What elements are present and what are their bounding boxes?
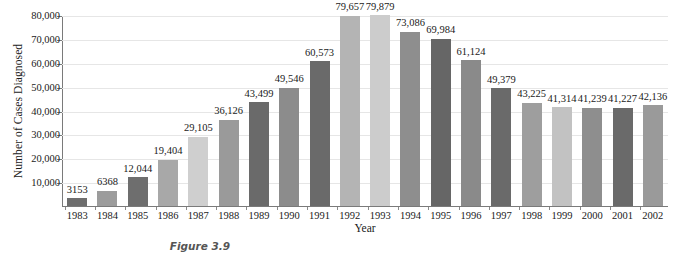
bar-group[interactable]: 43,4991989 [244,16,274,206]
x-axis-line [62,206,668,207]
bar-group[interactable]: 73,0861994 [395,16,425,206]
bar[interactable] [552,107,572,206]
x-axis-tick [459,207,460,210]
bar[interactable] [582,108,602,206]
x-axis-tick [95,207,96,210]
x-axis-tick [337,207,338,210]
bar-group[interactable]: 41,2272001 [607,16,637,206]
bar-value-label: 41,239 [578,94,607,105]
y-axis-tick-label: 10,000 [4,178,60,189]
bar-value-label: 36,126 [214,106,243,117]
bar[interactable] [643,105,663,206]
x-axis-tick [186,207,187,210]
bar-value-label: 41,314 [548,94,577,105]
bar[interactable] [431,39,451,206]
y-axis-tick-label: 30,000 [4,130,60,141]
x-axis-tick-label: 1997 [491,210,512,221]
bar-group[interactable]: 19,4041986 [153,16,183,206]
bar[interactable] [158,160,178,206]
x-axis-tick [580,207,581,210]
bar[interactable] [491,88,511,206]
y-axis-tick-label: 60,000 [4,59,60,70]
bar[interactable] [279,88,299,206]
x-axis-tick [216,207,217,210]
bar-value-label: 19,404 [154,146,183,157]
bar[interactable] [310,61,330,206]
bar-value-label: 6368 [97,177,118,188]
x-axis-title: Year [62,222,668,234]
bar-series: 315319836368198412,044198519,404198629,1… [62,16,668,206]
bar-group[interactable]: 36,1261988 [214,16,244,206]
y-axis-tick-label: 20,000 [4,154,60,165]
x-axis-tick-label: 1991 [309,210,330,221]
bar[interactable] [67,198,87,206]
bar-group[interactable]: 41,3141999 [547,16,577,206]
bar-group[interactable]: 42,1362002 [638,16,668,206]
x-axis-tick [65,207,66,210]
x-axis-tick-label: 1992 [339,210,360,221]
bar-value-label: 49,379 [487,75,516,86]
x-axis-tick-label: 1986 [158,210,179,221]
x-axis-tick [489,207,490,210]
bar[interactable] [522,103,542,206]
bar-value-label: 79,879 [366,2,395,13]
bar[interactable] [340,16,360,206]
bar-group[interactable]: 31531983 [62,16,92,206]
bar-value-label: 61,124 [457,47,486,58]
bar-value-label: 29,105 [184,123,213,134]
bar[interactable] [219,120,239,206]
bar-value-label: 60,573 [305,48,334,59]
y-axis-tick-label: 70,000 [4,35,60,46]
bar[interactable] [613,108,633,206]
bar-group[interactable]: 79,8791993 [365,16,395,206]
bar-group[interactable]: 69,9841995 [426,16,456,206]
x-axis-tick [307,207,308,210]
bar-value-label: 41,227 [608,94,637,105]
bar-value-label: 73,086 [396,18,425,29]
x-axis-tick-label: 1996 [461,210,482,221]
x-axis-tick-label: 1993 [370,210,391,221]
bar-group[interactable]: 79,6571992 [335,16,365,206]
bar-group[interactable]: 49,3791997 [486,16,516,206]
y-axis-tick-label: 50,000 [4,83,60,94]
bar-value-label: 43,225 [517,89,546,100]
x-axis-tick [398,207,399,210]
figure-container: Number of Cases Diagnosed 10,00020,00030… [0,0,678,265]
x-axis-tick [277,207,278,210]
bar-group[interactable]: 60,5731991 [304,16,334,206]
bar-value-label: 3153 [67,185,88,196]
bar-value-label: 43,499 [245,89,274,100]
bar-group[interactable]: 63681984 [92,16,122,206]
x-axis-tick-label: 2001 [612,210,633,221]
bar[interactable] [461,60,481,206]
bar-value-label: 12,044 [123,164,152,175]
x-axis-tick-label: 2002 [642,210,663,221]
x-axis-tick [640,207,641,210]
bar-group[interactable]: 49,5461990 [274,16,304,206]
x-axis-tick-label: 1990 [279,210,300,221]
bar-value-label: 79,657 [335,2,364,13]
x-axis-tick [125,207,126,210]
bar-group[interactable]: 43,2251998 [517,16,547,206]
x-axis-tick [610,207,611,210]
x-axis-tick-label: 2000 [582,210,603,221]
plot-area: 10,00020,00030,00040,00050,00060,00070,0… [62,16,668,207]
bar[interactable] [249,102,269,206]
bar[interactable] [400,32,420,206]
bar-value-label: 49,546 [275,74,304,85]
x-axis-tick-label: 1987 [188,210,209,221]
bar[interactable] [188,137,208,206]
x-axis-tick [549,207,550,210]
bar[interactable] [128,177,148,206]
bar-group[interactable]: 29,1051987 [183,16,213,206]
bar-group[interactable]: 61,1241996 [456,16,486,206]
x-axis-tick-label: 1984 [97,210,118,221]
bar[interactable] [97,191,117,206]
x-axis-tick-label: 1983 [67,210,88,221]
x-axis-tick [519,207,520,210]
figure-caption: Figure 3.9 [0,240,400,252]
bar-group[interactable]: 12,0441985 [123,16,153,206]
x-axis-tick-label: 1998 [521,210,542,221]
bar[interactable] [370,15,390,206]
bar-group[interactable]: 41,2392000 [577,16,607,206]
